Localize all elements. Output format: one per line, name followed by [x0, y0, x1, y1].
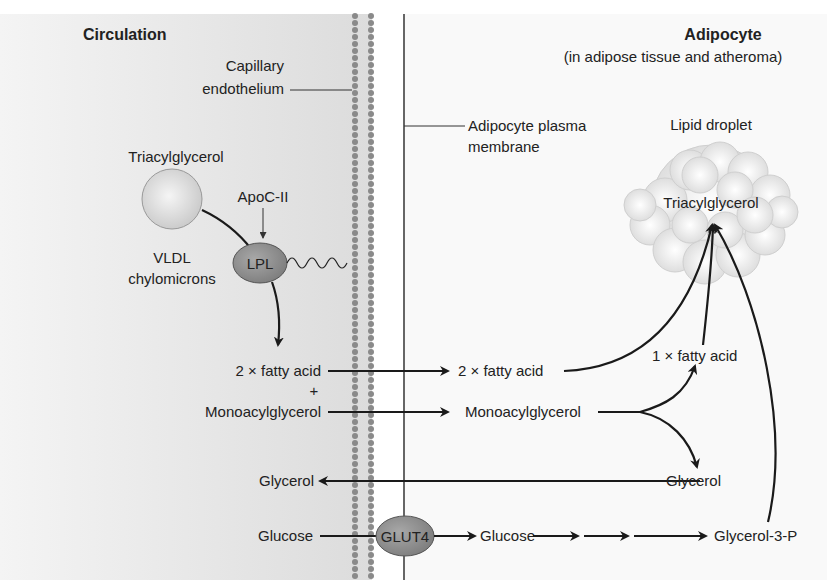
plasma-membrane-label-line2: membrane	[468, 138, 540, 155]
apoc-ii-label: ApoC-II	[238, 188, 289, 205]
right-one-fatty-acid: 1 × fatty acid	[652, 347, 737, 364]
left-monoacylglycerol: Monoacylglycerol	[205, 403, 321, 420]
circulation-region	[0, 14, 372, 580]
plasma-membrane-label-line1: Adipocyte plasma	[468, 117, 587, 134]
right-glycerol-3-phosphate: Glycerol-3-P	[714, 527, 797, 544]
capillary-label-line1: Capillary	[226, 57, 285, 74]
lipid-droplet-label: Lipid droplet	[670, 116, 753, 133]
left-fatty-acid: 2 × fatty acid	[236, 362, 321, 379]
right-glucose: Glucose	[480, 527, 535, 544]
left-glycerol: Glycerol	[259, 472, 314, 489]
right-glycerol: Glycerol	[666, 472, 721, 489]
vldl-particle	[142, 169, 202, 229]
adipocyte-region	[405, 14, 827, 580]
circulation-title: Circulation	[83, 26, 167, 43]
left-glucose: Glucose	[258, 527, 313, 544]
glut4-label: GLUT4	[381, 528, 429, 545]
lpl-label: LPL	[247, 255, 274, 272]
right-fatty-acid: 2 × fatty acid	[458, 362, 543, 379]
capillary-label-line2: endothelium	[202, 80, 284, 97]
vldl-triacylglycerol-label: Triacylglycerol	[128, 148, 223, 165]
droplet-triacylglycerol-label: Triacylglycerol	[663, 194, 758, 211]
adipocyte-subtitle: (in adipose tissue and atheroma)	[564, 48, 782, 65]
lipoprotein-lipase-diagram: Circulation Adipocyte (in adipose tissue…	[0, 0, 827, 588]
vldl-label-line1: VLDL	[153, 249, 191, 266]
right-monoacylglycerol: Monoacylglycerol	[465, 403, 581, 420]
left-plus: +	[310, 382, 319, 399]
adipocyte-title: Adipocyte	[684, 26, 761, 43]
vldl-label-line2: chylomicrons	[128, 270, 216, 287]
